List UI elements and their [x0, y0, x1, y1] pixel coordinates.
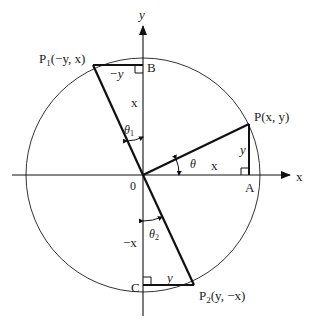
point-B-label: B [147, 60, 156, 75]
rotation-diagram: y x 0 P(x, y) A B C P1(−y, x) P2(y, −x) … [0, 0, 314, 323]
right-angle-A [241, 168, 249, 175]
segment-PA-label: y [238, 142, 246, 157]
segment-OB-label: x [131, 95, 138, 110]
segment-OC-label: −x [123, 235, 137, 250]
point-P2-label: P2(y, −x) [199, 288, 245, 305]
origin-label: 0 [130, 179, 136, 193]
angle-theta1-label: θ1 [124, 123, 134, 138]
segment-OP1 [93, 65, 143, 175]
segment-P1B-label: −y [109, 66, 124, 81]
point-P-label: P(x, y) [254, 109, 289, 124]
point-A-label: A [245, 180, 255, 195]
angle-theta2-arc [143, 217, 162, 221]
y-axis-label: y [137, 7, 145, 22]
segment-OA-label: x [211, 158, 218, 173]
angle-theta-label: θ [190, 157, 196, 171]
right-angle-C [143, 277, 151, 285]
angle-theta-arc [176, 159, 179, 175]
point-C-label: C [131, 280, 140, 295]
right-angle-B [135, 65, 143, 73]
point-P1-label: P1(−y, x) [39, 51, 85, 68]
segment-CP2-label: y [165, 270, 173, 285]
x-axis-label: x [296, 169, 303, 184]
segment-OP [143, 124, 249, 175]
angle-theta2-label: θ2 [149, 227, 159, 242]
